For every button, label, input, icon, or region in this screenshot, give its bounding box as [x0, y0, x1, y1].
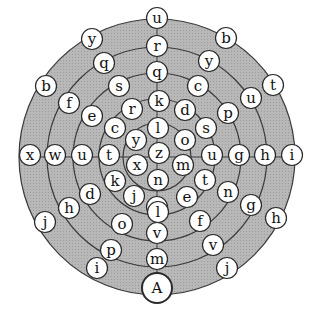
maze-node[interactable]: s [196, 118, 217, 139]
maze-node[interactable]: y [199, 51, 220, 72]
node-label: r [128, 100, 136, 118]
maze-node[interactable]: v [203, 235, 224, 256]
maze-diagram: urqklznjlvmyqsbfercyxwutxkjdhjopibyctudp… [0, 0, 315, 321]
maze-node[interactable]: g [241, 195, 262, 216]
node-label: c [111, 119, 119, 137]
maze-node[interactable]: l [148, 118, 169, 139]
maze-node[interactable]: d [175, 100, 196, 121]
maze-node[interactable]: z [149, 143, 170, 164]
maze-node[interactable]: u [202, 145, 223, 166]
maze-node[interactable]: q [94, 53, 115, 74]
maze-node[interactable]: j [217, 258, 238, 279]
node-label: n [153, 171, 163, 189]
maze-node[interactable]: d [80, 184, 101, 205]
node-label: h [271, 209, 281, 227]
node-label: h [260, 146, 270, 164]
node-label: m [176, 156, 190, 174]
maze-node[interactable]: n [218, 182, 239, 203]
maze-node[interactable]: s [109, 76, 130, 97]
node-label: n [223, 183, 233, 201]
maze-node[interactable]: n [148, 170, 169, 191]
maze-node[interactable]: i [87, 258, 108, 279]
maze-node[interactable]: m [173, 155, 194, 176]
node-label: r [153, 37, 161, 55]
maze-node[interactable]: b [216, 28, 237, 49]
node-label: s [115, 77, 123, 95]
node-label: m [150, 250, 164, 268]
node-label: v [208, 236, 218, 254]
maze-node[interactable]: f [59, 93, 80, 114]
maze-node[interactable]: l [148, 202, 169, 223]
maze-node[interactable]: q [147, 62, 168, 83]
maze-node[interactable]: y [82, 29, 103, 50]
maze-node[interactable]: h [255, 145, 276, 166]
node-label: h [64, 199, 74, 217]
node-label: d [85, 185, 95, 203]
node-label: y [131, 131, 141, 149]
maze-node[interactable]: j [124, 186, 145, 207]
node-label: p [106, 241, 116, 259]
maze-node[interactable]: t [99, 145, 120, 166]
node-label: l [156, 203, 161, 221]
maze-node[interactable]: m [147, 249, 168, 270]
maze-node[interactable]: u [241, 88, 262, 109]
maze-node[interactable]: t [195, 170, 216, 191]
maze-node[interactable]: c [188, 76, 209, 97]
node-label: e [183, 188, 192, 206]
maze-node[interactable]: h [59, 198, 80, 219]
node-layer: urqklznjlvmyqsbfercyxwutxkjdhjopibyctudp… [20, 8, 303, 304]
node-label: o [117, 215, 126, 233]
maze-node[interactable]: g [229, 145, 250, 166]
node-label: t [202, 171, 208, 189]
node-label: o [180, 131, 189, 149]
node-label: t [270, 76, 276, 94]
maze-node[interactable]: p [218, 103, 239, 124]
node-label: w [49, 146, 62, 164]
maze-node[interactable]: w [45, 145, 66, 166]
maze-node[interactable]: k [149, 91, 170, 112]
node-label: x [133, 156, 142, 174]
maze-node[interactable]: x [20, 145, 41, 166]
maze-node[interactable]: j [35, 212, 56, 233]
node-label: k [154, 92, 164, 110]
maze-node[interactable]: v [147, 223, 168, 244]
node-label: A [151, 279, 163, 297]
maze-node[interactable]: c [105, 118, 126, 139]
maze-node[interactable]: y [126, 130, 147, 151]
maze-node[interactable]: r [147, 36, 168, 57]
maze-node[interactable]: o [112, 214, 133, 235]
node-label: k [110, 172, 120, 190]
node-label: y [87, 30, 97, 48]
node-label: b [41, 77, 51, 95]
maze-node[interactable]: r [122, 99, 143, 120]
node-label: i [95, 259, 100, 277]
node-label: y [204, 52, 214, 70]
maze-node[interactable]: u [147, 8, 168, 29]
maze-canvas: urqklznjlvmyqsbfercyxwutxkjdhjopibyctudp… [0, 0, 315, 321]
maze-node[interactable]: x [127, 155, 148, 176]
maze-node[interactable]: k [105, 171, 126, 192]
maze-node[interactable]: f [190, 211, 211, 232]
start-node[interactable]: A [142, 273, 172, 303]
maze-node[interactable]: b [36, 76, 57, 97]
node-label: u [77, 146, 87, 164]
node-label: u [152, 9, 162, 27]
maze-node[interactable]: p [101, 240, 122, 261]
maze-node[interactable]: e [177, 187, 198, 208]
node-label: t [106, 146, 112, 164]
node-label: p [223, 104, 233, 122]
node-label: i [290, 146, 295, 164]
node-label: u [207, 146, 217, 164]
maze-node[interactable]: o [175, 130, 196, 151]
node-label: e [88, 107, 97, 125]
maze-node[interactable]: e [82, 106, 103, 127]
node-label: v [152, 224, 162, 242]
node-label: c [194, 77, 202, 95]
node-label: q [152, 63, 162, 81]
maze-node[interactable]: i [282, 145, 303, 166]
node-label: s [202, 119, 210, 137]
maze-node[interactable]: t [263, 75, 284, 96]
maze-node[interactable]: h [266, 208, 287, 229]
maze-node[interactable]: u [72, 145, 93, 166]
node-label: z [155, 144, 163, 162]
